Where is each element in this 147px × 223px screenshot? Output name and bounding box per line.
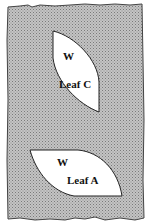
leaf-diagram: W Leaf C W Leaf A [0, 0, 147, 223]
leaf-c-mark: W [63, 50, 74, 62]
leaf-c-label: Leaf C [59, 78, 91, 90]
leaf-a-label: Leaf A [67, 174, 99, 186]
leaf-a-mark: W [57, 156, 68, 168]
